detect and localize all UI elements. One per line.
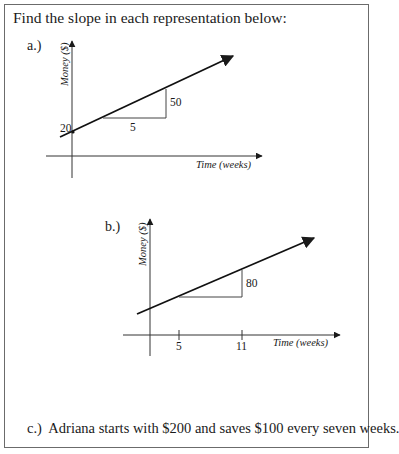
graph-b-rise-label: 80 [246,277,258,289]
problem-c-label: c.) [27,420,42,436]
problem-a-label: a.) [27,38,41,54]
graph-b-ylabel: Money ($) [137,222,149,267]
graph-a-intercept-point [71,130,74,133]
graph-b-tick-label-5: 5 [176,340,182,352]
graph-b-tick-label-11: 11 [236,340,247,352]
graph-b: 5 11 80 Time (weeks) Money ($) [123,219,340,356]
graph-a-line [60,56,233,137]
problem-c: c.) Adriana starts with $200 and saves $… [27,420,399,437]
problem-b-label: b.) [105,219,120,235]
graph-b-xlabel: Time (weeks) [273,337,329,349]
graph-b-line [137,238,314,314]
graph-a-xlabel: Time (weeks) [196,159,252,171]
graph-a-intercept-label: 20 [60,122,72,134]
graph-a-slope-triangle [103,89,166,118]
problem-c-text: Adriana starts with $200 and saves $100 … [48,420,399,436]
graph-a: 20 5 50 Time (weeks) Money ($) [46,41,262,178]
graph-a-run-label: 5 [130,121,136,133]
graph-a-ylabel: Money ($) [59,42,71,87]
graph-a-rise-label: 50 [170,96,182,108]
graph-b-slope-triangle [179,270,242,297]
